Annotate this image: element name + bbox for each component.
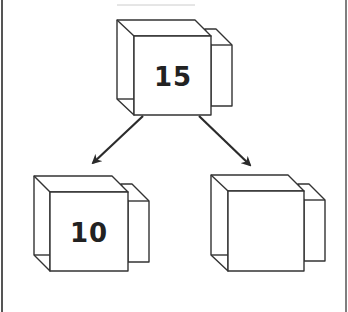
right-child-box (211, 175, 325, 271)
right-child-box-front (228, 191, 304, 271)
diagram-canvas: 15 10 (0, 0, 348, 312)
left-child-value: 10 (70, 218, 108, 248)
root-node-value: 15 (154, 62, 192, 92)
arrow-root-to-left (93, 116, 143, 163)
arrow-root-to-right (199, 116, 250, 165)
